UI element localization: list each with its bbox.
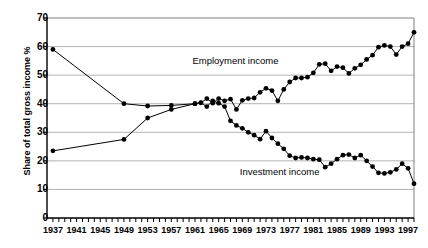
data-point bbox=[145, 116, 150, 121]
data-point bbox=[358, 153, 363, 158]
data-point bbox=[51, 148, 56, 153]
data-point bbox=[234, 123, 239, 128]
data-point bbox=[400, 44, 405, 49]
data-point bbox=[400, 161, 405, 166]
data-point bbox=[394, 52, 399, 57]
data-point bbox=[222, 98, 227, 103]
series-line bbox=[53, 101, 414, 184]
data-point bbox=[335, 64, 340, 69]
data-point bbox=[281, 146, 286, 151]
data-point bbox=[275, 141, 280, 146]
data-point bbox=[246, 130, 251, 135]
data-point bbox=[252, 133, 257, 138]
data-point bbox=[352, 66, 357, 71]
gridlines bbox=[47, 47, 414, 190]
data-point bbox=[169, 107, 174, 112]
data-point bbox=[216, 101, 221, 106]
data-point bbox=[51, 47, 56, 52]
data-point bbox=[234, 107, 239, 112]
data-point bbox=[376, 170, 381, 175]
data-point bbox=[293, 156, 298, 161]
data-point bbox=[199, 100, 204, 105]
data-point bbox=[370, 53, 375, 58]
annotation-investment-income: Investment income bbox=[240, 166, 320, 177]
data-point bbox=[305, 156, 310, 161]
series-line bbox=[53, 32, 414, 109]
data-point bbox=[382, 171, 387, 176]
series-investment-income bbox=[51, 98, 417, 186]
data-point bbox=[246, 96, 251, 101]
data-point bbox=[270, 136, 275, 141]
data-point bbox=[323, 165, 328, 170]
data-point bbox=[210, 98, 215, 103]
data-point bbox=[346, 152, 351, 157]
data-point bbox=[406, 166, 411, 171]
series-employment-income bbox=[51, 30, 417, 112]
data-point bbox=[329, 68, 334, 73]
annotation-employment-income: Employment income bbox=[192, 55, 278, 66]
data-point bbox=[317, 62, 322, 67]
data-point bbox=[358, 62, 363, 67]
data-point bbox=[258, 137, 263, 142]
data-point bbox=[287, 153, 292, 158]
data-point bbox=[317, 157, 322, 162]
data-point bbox=[228, 118, 233, 123]
data-point bbox=[228, 97, 233, 102]
data-point bbox=[311, 70, 316, 75]
data-point bbox=[412, 181, 417, 186]
data-point bbox=[364, 158, 369, 163]
data-point bbox=[240, 126, 245, 131]
data-point bbox=[341, 65, 346, 70]
data-point bbox=[193, 101, 198, 106]
data-point bbox=[258, 90, 263, 95]
data-point bbox=[311, 157, 316, 162]
data-point bbox=[240, 98, 245, 103]
data-point bbox=[204, 104, 209, 109]
data-point bbox=[406, 41, 411, 46]
data-point bbox=[352, 156, 357, 161]
data-point bbox=[252, 96, 257, 101]
data-point bbox=[275, 98, 280, 103]
data-point bbox=[370, 164, 375, 169]
data-point bbox=[388, 170, 393, 175]
plot-area bbox=[0, 0, 428, 248]
data-point bbox=[346, 71, 351, 76]
data-point bbox=[222, 104, 227, 109]
data-point bbox=[281, 87, 286, 92]
data-point bbox=[299, 76, 304, 81]
data-point bbox=[341, 153, 346, 158]
data-point bbox=[122, 137, 127, 142]
data-point bbox=[323, 61, 328, 66]
data-point bbox=[264, 129, 269, 134]
chart-figure: Share of total gross income % 0102030405… bbox=[0, 0, 428, 248]
data-point bbox=[382, 43, 387, 48]
data-point bbox=[204, 96, 209, 101]
data-point bbox=[287, 80, 292, 85]
data-point bbox=[364, 57, 369, 62]
data-point bbox=[122, 101, 127, 106]
data-point bbox=[329, 161, 334, 166]
data-point bbox=[299, 155, 304, 160]
data-point bbox=[264, 86, 269, 91]
data-point bbox=[305, 75, 310, 80]
data-point bbox=[335, 157, 340, 162]
data-point bbox=[145, 104, 150, 109]
data-point bbox=[394, 167, 399, 172]
data-point bbox=[293, 76, 298, 81]
data-point bbox=[376, 45, 381, 50]
data-point bbox=[388, 44, 393, 49]
data-point bbox=[412, 30, 417, 35]
data-point bbox=[270, 88, 275, 93]
data-point bbox=[216, 96, 221, 101]
plot-frame bbox=[47, 17, 414, 218]
